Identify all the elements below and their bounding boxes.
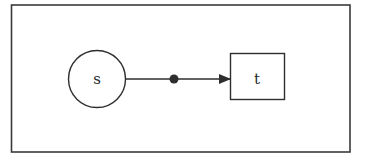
node-s-label: s (93, 70, 101, 88)
node-t: t (231, 54, 285, 100)
edge-midpoint-dot (170, 75, 179, 84)
node-s: s (69, 51, 126, 108)
node-t-label: t (254, 70, 260, 88)
edge-s-to-t (126, 75, 231, 84)
diagram-canvas: s t (0, 0, 366, 163)
